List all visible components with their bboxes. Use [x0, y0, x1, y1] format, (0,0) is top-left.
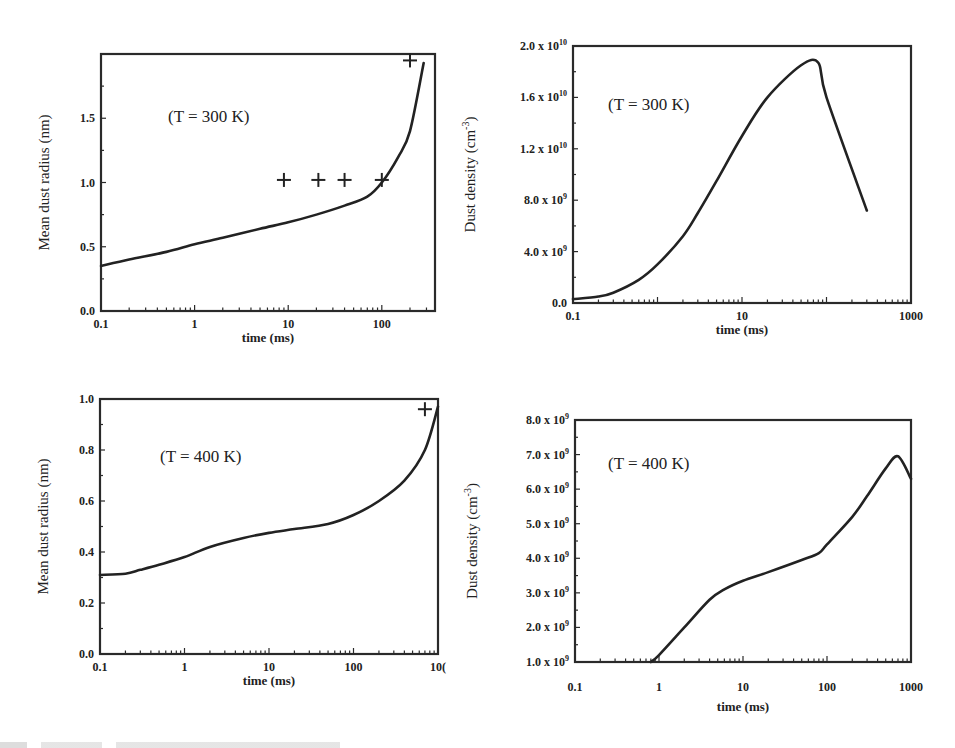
temperature-annotation: (T = 400 K)	[160, 447, 242, 466]
x-tick-label: 0.1	[568, 680, 583, 694]
y-tick-label: 3.0 x 109	[526, 585, 569, 600]
y-tick-label: 4.0 x 109	[526, 550, 569, 565]
x-tick-label: 0.1	[566, 309, 581, 323]
x-axis-label: time (ms)	[242, 330, 294, 345]
y-tick-label: 1.5	[80, 111, 95, 125]
y-tick-label: 7.0 x 109	[526, 447, 569, 462]
x-tick-label: 1	[656, 680, 662, 694]
x-tick-label: 100	[818, 680, 836, 694]
x-tick-label: 1	[182, 660, 188, 674]
y-axis-label: Mean dust radius (nm)	[35, 458, 52, 594]
x-tick-label: 10	[263, 660, 275, 674]
panel-density-300k: 0.04.0 x 1098.0 x 1091.2 x 10101.6 x 101…	[460, 38, 923, 337]
y-tick-label: 0.8	[79, 443, 94, 457]
y-tick-label: 2.0 x 109	[526, 619, 569, 634]
x-tick-label: 10	[737, 680, 749, 694]
y-tick-label: 1.0	[79, 392, 94, 406]
y-tick-label: 5.0 x 109	[526, 516, 569, 531]
y-tick-label: 0.0	[79, 647, 94, 661]
series-line-model	[100, 407, 438, 575]
panel-density-400k: 1.0 x 1092.0 x 1093.0 x 1094.0 x 1095.0 …	[462, 412, 923, 714]
plot-frame	[573, 46, 911, 303]
y-tick-label: 0.0	[552, 296, 567, 310]
y-tick-label: 0.5	[80, 240, 95, 254]
y-tick-label: 4.0 x 109	[524, 244, 567, 259]
series-markers-experiment	[277, 53, 417, 187]
x-tick-label: 1	[192, 317, 198, 331]
figure-2x2-dust-growth: 0.00.51.01.50.1110100time (ms)Mean dust …	[0, 0, 955, 748]
y-axis-label: Dust density (cm-3)	[460, 117, 479, 233]
x-tick-label: 1000	[899, 680, 923, 694]
x-tick-label: 10	[282, 317, 294, 331]
y-tick-label: 2.0 x 1010	[520, 38, 567, 53]
y-tick-label: 1.0	[80, 176, 95, 190]
y-axis-label: Dust density (cm-3)	[462, 483, 481, 599]
y-tick-label: 1.0 x 109	[526, 654, 569, 669]
panel-radius-400k: 0.00.20.40.60.81.00.111010010(time (ms)M…	[35, 392, 446, 688]
x-tick-label: 100	[373, 317, 391, 331]
y-tick-label: 0.4	[79, 545, 94, 559]
x-tick-label: 100	[345, 660, 363, 674]
y-tick-label: 0.2	[79, 596, 94, 610]
temperature-annotation: (T = 300 K)	[608, 95, 690, 114]
x-axis-label: time (ms)	[243, 673, 295, 688]
plot-frame	[101, 54, 435, 311]
x-tick-label: 0.1	[93, 660, 108, 674]
y-tick-label: 1.6 x 1010	[520, 89, 567, 104]
series-markers-experiment	[418, 402, 432, 416]
x-tick-label: 0.1	[94, 317, 109, 331]
y-tick-label: 1.2 x 1010	[520, 141, 567, 156]
x-axis-label: time (ms)	[716, 322, 768, 337]
x-tick-label: 1000	[899, 309, 923, 323]
y-tick-label: 0.6	[79, 494, 94, 508]
y-tick-label: 8.0 x 109	[526, 412, 569, 427]
y-tick-label: 8.0 x 109	[524, 192, 567, 207]
temperature-annotation: (T = 400 K)	[608, 454, 690, 473]
figure-canvas: 0.00.51.01.50.1110100time (ms)Mean dust …	[0, 0, 955, 748]
x-tick-label: 10(	[430, 660, 446, 674]
plot-frame	[100, 399, 438, 654]
y-axis-label: Mean dust radius (nm)	[36, 114, 53, 250]
y-tick-label: 6.0 x 109	[526, 481, 569, 496]
x-tick-label: 10	[736, 309, 748, 323]
x-axis-label: time (ms)	[717, 699, 769, 714]
panel-radius-300k: 0.00.51.01.50.1110100time (ms)Mean dust …	[36, 53, 435, 345]
series-line-model	[101, 63, 424, 266]
series-line-model	[651, 456, 911, 662]
y-tick-label: 0.0	[80, 304, 95, 318]
cut-off-caption-text	[0, 742, 340, 748]
temperature-annotation: (T = 300 K)	[168, 107, 250, 126]
